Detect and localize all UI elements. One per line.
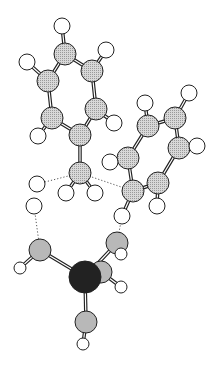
hydrogen-atom [115, 281, 127, 293]
hydrogen-atom [149, 198, 165, 214]
carbon-atom [137, 115, 159, 137]
hydrogen-atom [30, 128, 46, 144]
hydrogen-atom [102, 154, 118, 170]
hydrogen-atom [106, 115, 122, 131]
hydrogen-atom [14, 262, 26, 274]
hydrogen-atom [26, 198, 42, 214]
carbon-atom [85, 98, 107, 120]
oxygen-atom [75, 311, 97, 333]
carbon-atom [168, 137, 190, 159]
carbon-atom [37, 70, 59, 92]
carbon-atom [54, 43, 76, 65]
hydrogen-atom [77, 338, 89, 350]
oxygen-atom [29, 239, 51, 261]
carbon-atom [117, 147, 139, 169]
hydrogen-atom [19, 54, 35, 70]
hydrogen-atom [29, 176, 45, 192]
hydrogen-atom [58, 185, 74, 201]
carbon-atom [69, 124, 91, 146]
hydrogen-atom [181, 85, 197, 101]
hydrogen-atom [114, 208, 130, 224]
carbon-atom [147, 172, 169, 194]
hydrogen-atom [189, 138, 205, 154]
carbon-atom [41, 107, 63, 129]
atoms [14, 18, 205, 350]
hydrogen-atom [137, 95, 153, 111]
hydrogen-atom [115, 248, 127, 260]
carbon-atom [81, 60, 103, 82]
carbon-atom [164, 107, 186, 129]
carbon-atom [122, 180, 144, 202]
hydrogen-atom [54, 18, 70, 34]
molecule-diagram [0, 0, 219, 369]
metal-atom [69, 261, 101, 293]
carbon-atom [69, 162, 91, 184]
hydrogen-atom [87, 185, 103, 201]
hydrogen-atom [98, 42, 114, 58]
